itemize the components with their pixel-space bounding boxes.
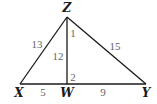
vertex-label-z: Z xyxy=(62,1,73,15)
segment-xw-length: 5 xyxy=(40,86,46,98)
triangle-diagram: Z X W Y 13 15 12 5 9 1 2 xyxy=(0,0,157,104)
angle-1-label: 1 xyxy=(70,27,76,39)
vertex-label-y: Y xyxy=(142,86,152,100)
segment-wy-length: 9 xyxy=(100,86,106,98)
vertex-label-w: W xyxy=(60,86,75,100)
segment-zy-length: 15 xyxy=(110,40,122,52)
segment-zw-length: 12 xyxy=(53,50,64,62)
vertex-label-x: X xyxy=(13,86,24,100)
segment-xz-length: 13 xyxy=(32,38,44,50)
angle-2-label: 2 xyxy=(70,71,76,83)
segment-zy xyxy=(67,17,146,84)
